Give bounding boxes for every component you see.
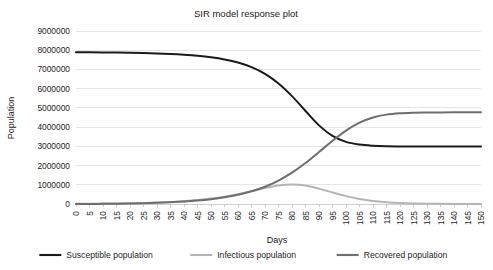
x-tick-label: 130 (422, 211, 432, 225)
x-tick-label: 90 (314, 211, 324, 221)
legend-label: Recovered population (364, 250, 448, 260)
x-tick-label: 145 (463, 211, 473, 225)
y-tick-label: 6000000 (37, 84, 70, 94)
x-tick-label: 70 (260, 211, 270, 221)
x-tick-label: 135 (436, 211, 446, 225)
y-tick-label: 8000000 (37, 45, 70, 55)
sir-model-chart: SIR model response plot 0100000020000003… (0, 0, 493, 270)
x-axis-title: Days (267, 235, 288, 245)
y-tick-label: 0 (65, 199, 70, 209)
x-tick-label: 85 (301, 211, 311, 221)
x-tick-label: 140 (449, 211, 459, 225)
x-tick-label: 100 (341, 211, 351, 225)
x-tick-label: 150 (476, 211, 486, 225)
x-tick-label: 35 (166, 211, 176, 221)
x-tick-label: 80 (287, 211, 297, 221)
y-tick-label: 2000000 (37, 161, 70, 171)
x-tick-label: 40 (179, 211, 189, 221)
series-line (76, 184, 481, 204)
x-tick-label: 105 (355, 211, 365, 225)
legend-label: Infectious population (217, 250, 296, 260)
x-tick-label: 60 (233, 211, 243, 221)
y-tick-label: 3000000 (37, 141, 70, 151)
x-tick-label: 30 (152, 211, 162, 221)
y-axis-tick-labels: 0100000020000003000000400000050000006000… (37, 26, 70, 209)
y-tick-label: 9000000 (37, 26, 70, 36)
x-tick-label: 115 (382, 211, 392, 225)
x-tick-label: 50 (206, 211, 216, 221)
y-tick-label: 4000000 (37, 122, 70, 132)
x-tick-label: 65 (247, 211, 257, 221)
y-tick-label: 5000000 (37, 103, 70, 113)
x-tick-label: 20 (125, 211, 135, 221)
series-line (76, 52, 481, 146)
x-tick-label: 55 (220, 211, 230, 221)
x-tick-label: 110 (368, 211, 378, 225)
chart-legend: Susceptible populationInfectious populat… (39, 250, 447, 260)
y-tick-label: 7000000 (37, 64, 70, 74)
series-line (76, 112, 481, 204)
legend-label: Susceptible population (66, 250, 153, 260)
x-tick-label: 45 (193, 211, 203, 221)
x-tick-label: 10 (98, 211, 108, 221)
x-tick-label: 120 (395, 211, 405, 225)
series-lines (76, 52, 481, 204)
y-gridlines (76, 31, 481, 204)
x-tick-label: 95 (328, 211, 338, 221)
x-tick-label: 15 (112, 211, 122, 221)
y-tick-label: 1000000 (37, 180, 70, 190)
x-tick-label: 125 (409, 211, 419, 225)
x-tick-label: 75 (274, 211, 284, 221)
chart-canvas: SIR model response plot 0100000020000003… (0, 0, 493, 270)
x-tick-label: 0 (71, 211, 81, 216)
y-axis-title: Population (6, 97, 16, 140)
x-tick-label: 25 (139, 211, 149, 221)
x-axis-tick-labels: 0510152025303540455055606570758085909510… (71, 211, 486, 225)
x-tick-label: 5 (85, 211, 95, 216)
chart-title: SIR model response plot (194, 8, 298, 19)
